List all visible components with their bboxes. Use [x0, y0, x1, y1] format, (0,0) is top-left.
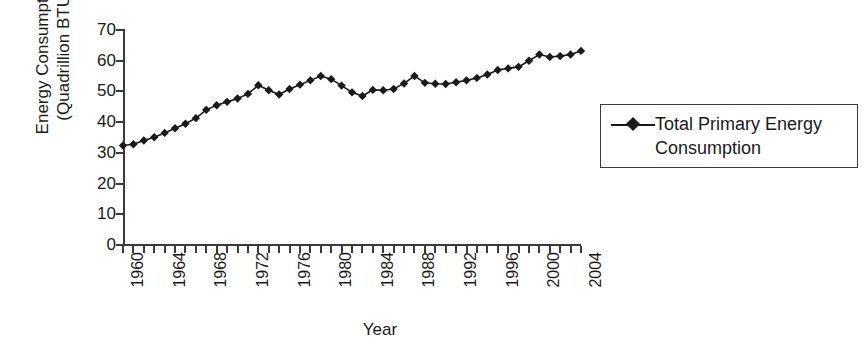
data-point-marker	[265, 86, 273, 94]
x-tick-1980	[330, 246, 332, 253]
x-tick-1960	[122, 246, 124, 253]
x-tick-1979	[320, 246, 322, 253]
data-point-marker	[577, 47, 585, 55]
data-point-marker	[348, 88, 356, 96]
data-point-marker	[494, 66, 502, 74]
data-point-marker	[160, 129, 168, 137]
data-point-marker	[556, 52, 564, 60]
x-tick-label-1976: 1976	[297, 252, 313, 288]
x-tick-1976	[289, 246, 291, 253]
x-tick-2000	[538, 246, 540, 253]
y-tick-label-text: 50	[80, 82, 116, 99]
data-point-marker	[535, 50, 543, 58]
x-axis-title: Year	[340, 320, 420, 340]
data-point-marker	[119, 141, 127, 149]
data-point-marker	[546, 53, 554, 61]
y-tick-label-text: 30	[80, 144, 116, 161]
x-tick-1995	[486, 246, 488, 253]
data-point-marker	[452, 78, 460, 86]
y-tick-label-text: 70	[80, 21, 116, 38]
data-point-marker	[473, 74, 481, 82]
data-point-marker	[275, 90, 283, 98]
x-tick-1967	[195, 246, 197, 253]
x-tick-label-1972: 1972	[255, 252, 271, 288]
x-tick-1963	[153, 246, 155, 253]
y-axis-title: Energy Consumption (Quadrillion BTU)	[32, 0, 74, 170]
x-tick-label-1960: 1960	[130, 252, 146, 288]
y-axis-title-line-2: (Quadrillion BTU)	[53, 0, 74, 170]
data-point-marker	[462, 76, 470, 84]
x-tick-1968	[205, 246, 207, 253]
energy-consumption-line-chart: Energy Consumption (Quadrillion BTU) 706…	[0, 0, 866, 364]
data-point-marker	[379, 86, 387, 94]
x-tick-label-2000: 2000	[546, 252, 562, 288]
data-point-marker	[483, 70, 491, 78]
x-tick-1996	[497, 246, 499, 253]
x-tick-1983	[361, 246, 363, 253]
series-total-primary-energy-consumption	[123, 30, 581, 245]
y-tick-label-text: 10	[80, 205, 116, 222]
x-tick-label-1964: 1964	[172, 252, 188, 288]
y-tick-label-text: 0	[80, 236, 116, 253]
data-point-marker	[140, 136, 148, 144]
x-tick-label-1988: 1988	[421, 252, 437, 288]
x-tick-1992	[455, 246, 457, 253]
data-point-marker	[421, 79, 429, 87]
x-tick-2004	[580, 246, 582, 253]
data-point-marker	[504, 64, 512, 72]
data-point-marker	[358, 92, 366, 100]
data-point-marker	[369, 86, 377, 94]
x-tick-1964	[164, 246, 166, 253]
data-point-marker	[525, 57, 533, 65]
data-point-marker	[233, 94, 241, 102]
data-point-marker	[181, 119, 189, 127]
data-point-marker	[337, 81, 345, 89]
x-tick-1991	[445, 246, 447, 253]
data-point-marker	[327, 75, 335, 83]
data-point-marker	[389, 85, 397, 93]
y-tick-label-text: 40	[80, 113, 116, 130]
data-point-marker	[296, 80, 304, 88]
data-point-marker	[212, 101, 220, 109]
x-tick-1984	[372, 246, 374, 253]
x-tick-label-2004: 2004	[588, 252, 604, 288]
data-point-marker	[150, 133, 158, 141]
data-point-marker	[285, 85, 293, 93]
x-tick-1971	[237, 246, 239, 253]
data-point-marker	[129, 140, 137, 148]
x-tick-label-1980: 1980	[338, 252, 354, 288]
x-tick-label-1992: 1992	[463, 252, 479, 288]
legend-label: Total Primary Energy Consumption	[655, 112, 845, 160]
chart-legend: Total Primary Energy Consumption	[600, 104, 858, 168]
x-tick-1999	[528, 246, 530, 253]
data-point-marker	[441, 80, 449, 88]
data-point-marker	[317, 72, 325, 80]
x-tick-1972	[247, 246, 249, 253]
data-point-marker	[514, 63, 522, 71]
y-axis-title-line-1: Energy Consumption	[32, 0, 53, 170]
data-point-marker	[306, 76, 314, 84]
data-point-marker	[431, 80, 439, 88]
x-tick-1988	[413, 246, 415, 253]
x-tick-1975	[278, 246, 280, 253]
x-tick-label-1996: 1996	[505, 252, 521, 288]
legend-marker-diamond-icon	[611, 114, 655, 136]
plot-area	[123, 30, 581, 245]
series-line	[123, 51, 581, 146]
x-tick-2003	[570, 246, 572, 253]
x-tick-label-1984: 1984	[380, 252, 396, 288]
y-tick-label-text: 60	[80, 52, 116, 69]
x-tick-label-1968: 1968	[213, 252, 229, 288]
data-point-marker	[223, 98, 231, 106]
data-point-marker	[566, 50, 574, 58]
x-tick-1987	[403, 246, 405, 253]
data-point-marker	[171, 124, 179, 132]
y-tick-label-text: 20	[80, 175, 116, 192]
